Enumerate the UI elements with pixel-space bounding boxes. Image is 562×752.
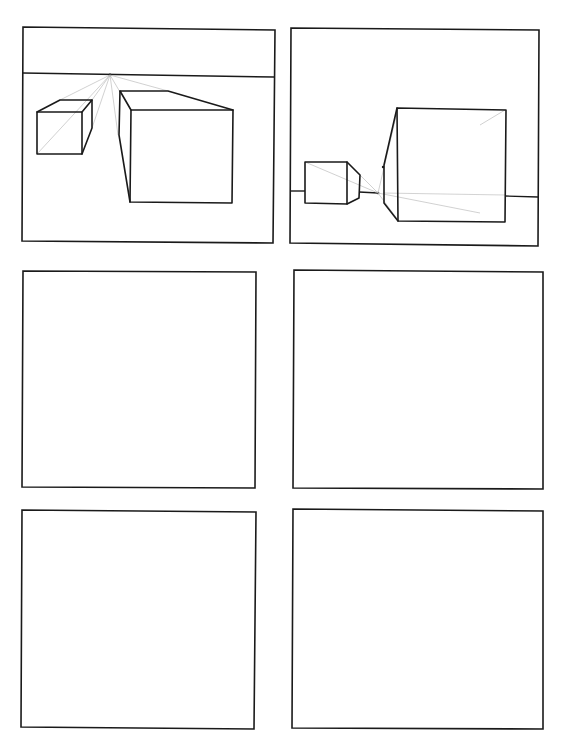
panel-1 xyxy=(22,27,275,243)
panel-6 xyxy=(292,509,543,729)
panel-frame xyxy=(21,510,256,729)
panel-3 xyxy=(22,271,256,488)
panel-4 xyxy=(293,270,543,489)
panel-frame xyxy=(293,270,543,489)
panel-frame xyxy=(290,28,539,246)
panel-frame xyxy=(22,271,256,488)
panel-2 xyxy=(290,28,539,246)
worksheet xyxy=(0,0,562,752)
panel-5 xyxy=(21,510,256,729)
panel-frame xyxy=(22,27,275,243)
panel-frame xyxy=(292,509,543,729)
